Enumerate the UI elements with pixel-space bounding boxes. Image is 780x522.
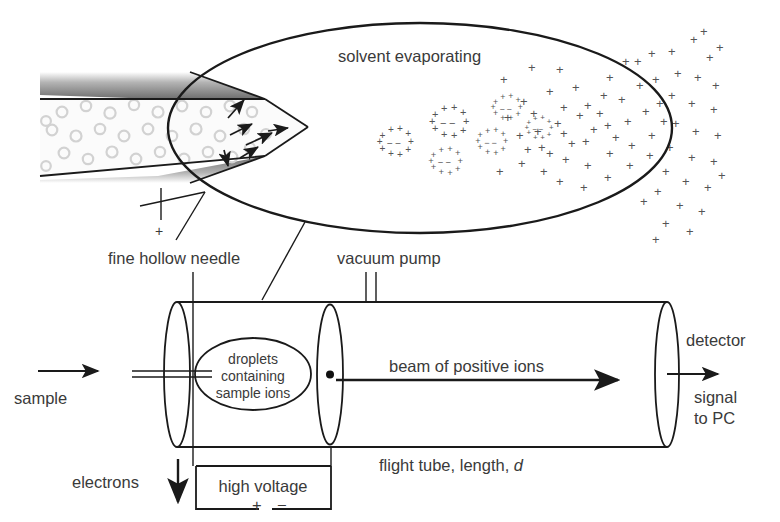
vacuum-pump-label: vacuum pump bbox=[337, 249, 441, 267]
svg-text:+: + bbox=[560, 100, 568, 115]
svg-text:+: + bbox=[508, 91, 513, 101]
svg-text:+: + bbox=[447, 167, 453, 178]
svg-text:+: + bbox=[654, 184, 662, 199]
svg-text:+: + bbox=[590, 122, 598, 137]
svg-text:+: + bbox=[460, 124, 466, 136]
sample-label: sample bbox=[14, 389, 67, 407]
svg-text:+: + bbox=[447, 143, 453, 154]
svg-text:+: + bbox=[690, 32, 698, 47]
electrons-label: electrons bbox=[72, 473, 139, 491]
svg-text:+: + bbox=[642, 104, 650, 119]
svg-text:+: + bbox=[496, 164, 504, 179]
svg-text:+: + bbox=[682, 174, 690, 189]
hv-positive-terminal: + bbox=[252, 496, 262, 514]
svg-text:+: + bbox=[397, 149, 403, 160]
signal-label-line2: to PC bbox=[694, 409, 735, 427]
svg-text:+: + bbox=[405, 144, 411, 155]
svg-text:−: − bbox=[492, 138, 497, 148]
diagram-canvas: ++ ++ ++ ++ ++ −− ++ ++ ++ ++ ++ −− ++ +… bbox=[0, 0, 780, 522]
svg-text:+: + bbox=[706, 50, 714, 65]
svg-text:+: + bbox=[628, 138, 636, 153]
svg-text:+: + bbox=[700, 24, 708, 39]
svg-text:+: + bbox=[716, 40, 724, 55]
svg-text:+: + bbox=[618, 92, 626, 107]
signal-label-line1: signal bbox=[694, 388, 737, 406]
svg-text:+: + bbox=[600, 88, 608, 103]
svg-text:+: + bbox=[698, 204, 706, 219]
svg-text:+: + bbox=[524, 123, 529, 132]
svg-text:+: + bbox=[718, 168, 726, 183]
svg-text:+: + bbox=[640, 194, 648, 209]
svg-text:+: + bbox=[604, 118, 612, 133]
svg-text:+: + bbox=[528, 60, 536, 75]
svg-text:+: + bbox=[694, 70, 702, 85]
fine-hollow-needle-label: fine hollow needle bbox=[108, 249, 240, 267]
needle-plus-label: + bbox=[155, 223, 163, 239]
svg-text:+: + bbox=[704, 180, 712, 195]
svg-text:+: + bbox=[576, 108, 584, 123]
svg-text:−: − bbox=[395, 138, 401, 149]
svg-text:+: + bbox=[540, 113, 545, 122]
svg-text:+: + bbox=[546, 84, 554, 99]
svg-text:+: + bbox=[485, 126, 490, 136]
svg-text:−: − bbox=[449, 117, 455, 129]
svg-text:+: + bbox=[556, 62, 564, 77]
svg-text:+: + bbox=[538, 140, 546, 155]
svg-text:+: + bbox=[504, 110, 512, 125]
svg-text:+: + bbox=[455, 163, 461, 174]
droplets-label-line3: sample ions bbox=[216, 385, 291, 401]
svg-text:+: + bbox=[429, 115, 435, 127]
droplets-label-line2: containing bbox=[221, 368, 285, 384]
svg-text:+: + bbox=[500, 92, 505, 102]
svg-text:+: + bbox=[636, 78, 644, 93]
svg-text:+: + bbox=[540, 164, 548, 179]
svg-text:+: + bbox=[584, 98, 592, 113]
svg-text:+: + bbox=[491, 102, 496, 112]
svg-text:+: + bbox=[451, 129, 457, 141]
svg-text:+: + bbox=[652, 72, 660, 87]
svg-text:+: + bbox=[624, 114, 632, 129]
svg-text:+: + bbox=[580, 180, 588, 195]
svg-text:+: + bbox=[441, 102, 447, 114]
svg-text:+: + bbox=[377, 136, 383, 147]
svg-text:+: + bbox=[562, 152, 570, 167]
svg-text:+: + bbox=[428, 155, 434, 166]
svg-text:+: + bbox=[485, 147, 490, 157]
svg-text:+: + bbox=[451, 101, 457, 113]
svg-text:+: + bbox=[439, 144, 445, 155]
svg-text:+: + bbox=[596, 106, 604, 121]
svg-text:−: − bbox=[440, 117, 446, 129]
svg-text:+: + bbox=[688, 96, 696, 111]
svg-text:+: + bbox=[686, 224, 694, 239]
detector-label: detector bbox=[686, 331, 746, 349]
svg-text:+: + bbox=[439, 166, 445, 177]
svg-text:+: + bbox=[397, 123, 403, 134]
svg-text:+: + bbox=[556, 174, 564, 189]
svg-text:+: + bbox=[604, 170, 612, 185]
svg-text:+: + bbox=[688, 150, 696, 165]
svg-text:+: + bbox=[568, 136, 576, 151]
droplets-label-line1: droplets bbox=[228, 351, 278, 367]
svg-text:+: + bbox=[606, 146, 614, 161]
svg-text:+: + bbox=[668, 44, 676, 59]
svg-text:+: + bbox=[692, 124, 700, 139]
svg-text:+: + bbox=[668, 88, 676, 103]
svg-text:+: + bbox=[501, 144, 506, 154]
high-voltage-label: high voltage bbox=[219, 477, 308, 495]
svg-text:+: + bbox=[554, 116, 562, 131]
svg-text:+: + bbox=[662, 164, 670, 179]
svg-text:+: + bbox=[660, 114, 668, 129]
svg-text:+: + bbox=[662, 216, 670, 231]
svg-text:+: + bbox=[710, 154, 718, 169]
aperture-hole bbox=[326, 371, 334, 379]
svg-text:−: − bbox=[387, 138, 393, 149]
flight-tube-length-text: flight tube, length, bbox=[379, 456, 514, 474]
svg-text:+: + bbox=[493, 125, 498, 135]
svg-text:−: − bbox=[438, 157, 444, 168]
svg-text:+: + bbox=[546, 146, 554, 161]
svg-text:+: + bbox=[674, 66, 682, 81]
hv-negative-terminal: − bbox=[277, 496, 287, 514]
svg-text:+: + bbox=[388, 124, 394, 135]
beam-of-positive-ions-label: beam of positive ions bbox=[389, 357, 544, 375]
svg-text:+: + bbox=[714, 128, 722, 143]
